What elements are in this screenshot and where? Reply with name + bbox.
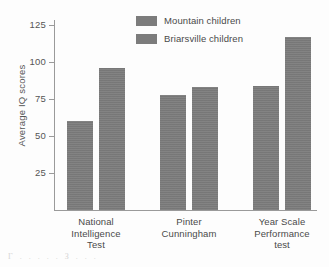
bar-national-mountain [67, 121, 93, 210]
legend-swatch-mountain [136, 16, 157, 26]
y-tick-label-125: 125 [2, 20, 46, 30]
bar-national-briarsville [99, 68, 125, 210]
bar-pinter-briarsville [192, 87, 218, 210]
y-tick-125 [49, 25, 55, 26]
x-category-label-national-line2: Intelligence [56, 228, 136, 240]
chart-figure: 125 100 75 50 25 Average IQ scores [0, 0, 329, 267]
y-tick-25 [49, 173, 55, 174]
legend-item-mountain: Mountain children [136, 13, 243, 28]
x-category-label-national-line3: Test [56, 239, 136, 251]
x-category-label-national: National Intelligence Test [56, 216, 136, 251]
y-tick-100 [49, 62, 55, 63]
y-tick-75 [49, 99, 55, 100]
x-category-label-yearscale-line3: test [242, 239, 322, 251]
scan-caption-artifact: Γ . . . . . З . . . [8, 252, 98, 261]
legend-item-briarsville: Briarsville children [136, 31, 243, 46]
x-category-label-yearscale-line2: Performance [242, 228, 322, 240]
legend-label-mountain: Mountain children [164, 15, 241, 26]
legend-label-briarsville: Briarsville children [164, 33, 243, 44]
bar-yearscale-mountain [253, 86, 279, 210]
y-axis-title: Average IQ scores [16, 41, 27, 171]
bar-yearscale-briarsville [285, 37, 311, 210]
chart-legend: Mountain children Briarsville children [136, 13, 243, 49]
y-axis-line [54, 20, 55, 211]
y-tick-label-125-wrap: 125 [0, 20, 46, 30]
plot-area: 125 100 75 50 25 Average IQ scores [0, 0, 329, 267]
y-tick-50 [49, 136, 55, 137]
x-category-label-pinter-line1: Pinter [149, 216, 229, 228]
legend-swatch-briarsville [136, 34, 157, 44]
x-axis-line [54, 210, 317, 211]
x-category-label-pinter: Pinter Cunningham [149, 216, 229, 239]
x-category-label-pinter-line2: Cunningham [149, 228, 229, 240]
x-category-label-national-line1: National [56, 216, 136, 228]
x-category-label-yearscale-line1: Year Scale [242, 216, 322, 228]
x-category-label-yearscale: Year Scale Performance test [242, 216, 322, 251]
bar-pinter-mountain [160, 95, 186, 210]
